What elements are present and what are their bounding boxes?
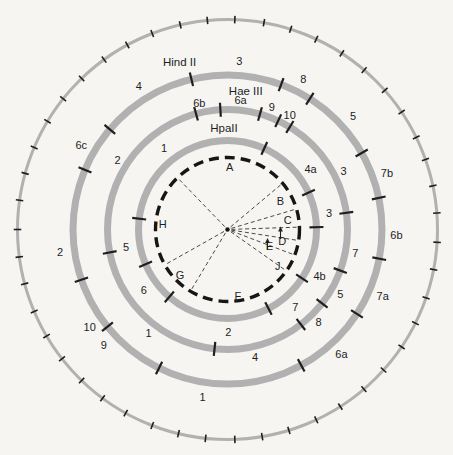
outer-ring-tick xyxy=(205,435,206,442)
fragment-label-haeiii: 5 xyxy=(337,288,343,300)
fragment-label-hindii: 7a xyxy=(377,290,390,302)
outer-ring-tick xyxy=(433,213,440,214)
fragment-label-hpaii: 5 xyxy=(123,241,129,253)
fragment-label-hindii: 1 xyxy=(199,391,205,403)
segment-letter-J: J xyxy=(275,260,281,272)
fragment-label-hindii: 7b xyxy=(381,167,393,179)
segment-letter-G: G xyxy=(176,269,185,281)
segment-letter-A: A xyxy=(226,161,234,173)
fragment-label-haeiii: 9 xyxy=(269,101,275,113)
enzyme-name-haeiii: Hae III xyxy=(229,85,263,97)
fragment-boundary-tick-haeiii xyxy=(214,342,216,356)
segment-letter-B: B xyxy=(277,195,284,207)
fragment-label-hpaii: 7 xyxy=(292,301,298,313)
fragment-label-hindii: 2 xyxy=(57,246,63,258)
fragment-label-hpaii: 3 xyxy=(326,207,332,219)
enzyme-name-hpaii: HpaII xyxy=(210,122,238,134)
fragment-label-haeiii: 4 xyxy=(252,351,258,363)
fragment-label-haeiii: 6b xyxy=(193,97,205,109)
restriction-map-figure: 3857b6b7a6a191026c4Hind II6a91037584126b… xyxy=(0,0,453,455)
outer-ring-tick xyxy=(16,256,23,257)
fragment-label-hindii: 5 xyxy=(350,110,356,122)
fragment-label-hpaii: 4b xyxy=(313,270,325,282)
fragment-label-haeiii: 1 xyxy=(145,327,151,339)
segment-letter-D: D xyxy=(278,235,286,247)
fragment-label-hindii: 10 xyxy=(84,321,96,333)
fragment-label-hindii: 6c xyxy=(75,139,87,151)
fragment-boundary-tick-haeiii xyxy=(220,103,221,117)
enzyme-name-hindii: Hind II xyxy=(163,56,196,68)
segment-letter-E: E xyxy=(266,240,273,252)
fragment-label-hindii: 8 xyxy=(300,73,306,85)
fragment-label-haeiii: 2 xyxy=(114,154,120,166)
center-point xyxy=(225,227,229,231)
fragment-label-haeiii: 3 xyxy=(340,165,346,177)
segment-letter-H: H xyxy=(159,218,167,230)
fragment-label-hindii: 9 xyxy=(101,339,107,351)
fragment-label-haeiii: 8 xyxy=(315,316,321,328)
fragment-label-haeiii: 10 xyxy=(284,109,296,121)
fragment-label-hindii: 6b xyxy=(390,229,402,241)
fragment-label-hpaii: 2 xyxy=(225,326,231,338)
outer-ring-tick xyxy=(16,200,23,201)
fragment-label-hpaii: 4a xyxy=(304,163,317,175)
fragment-label-hpaii: 6 xyxy=(141,284,147,296)
fragment-label-hindii: 6a xyxy=(335,348,348,360)
restriction-map-canvas: 3857b6b7a6a191026c4Hind II6a91037584126b… xyxy=(0,0,453,455)
fragment-label-haeiii: 7 xyxy=(352,247,358,259)
segment-letter-F: F xyxy=(235,290,242,302)
fragment-label-hindii: 3 xyxy=(236,55,242,67)
segment-letter-C: C xyxy=(284,214,292,226)
fragment-label-hindii: 4 xyxy=(136,80,142,92)
outer-ring-tick xyxy=(207,17,208,24)
fragment-label-hpaii: 1 xyxy=(161,142,167,154)
